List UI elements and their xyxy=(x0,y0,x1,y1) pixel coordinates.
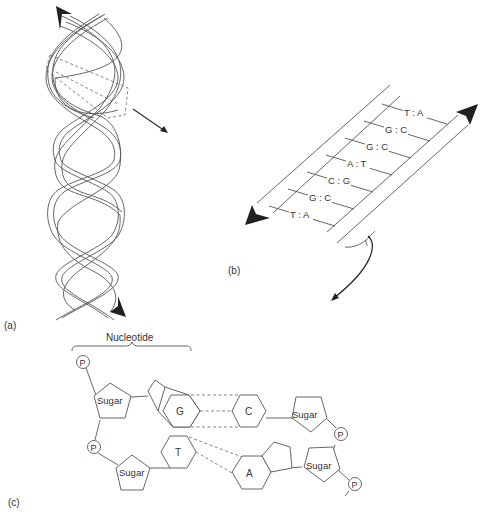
base-t: T xyxy=(161,436,196,468)
panel-c-nucleotide-pairing: Nucleotide P P P P xyxy=(72,332,362,496)
svg-text:P: P xyxy=(80,358,86,368)
panel-b-label: (b) xyxy=(228,265,240,276)
svg-text:Sugar: Sugar xyxy=(292,409,317,420)
panel-a-label: (a) xyxy=(4,320,16,331)
phosphate-2: P xyxy=(88,441,101,454)
svg-text:T: T xyxy=(175,447,181,458)
svg-text:G: G xyxy=(176,406,184,417)
nucleotide-bracket-label: Nucleotide xyxy=(106,332,154,343)
phosphate-1: P xyxy=(77,356,90,369)
sugar-2: Sugar xyxy=(116,455,150,490)
sugar-4: Sugar xyxy=(304,447,340,482)
base-pair-4: A : T xyxy=(347,158,367,169)
base-c: C xyxy=(232,395,266,427)
base-pair-3: G : C xyxy=(366,141,388,152)
base-pair-2: G : C xyxy=(385,124,407,135)
svg-text:Sugar: Sugar xyxy=(306,460,331,471)
base-g: G xyxy=(148,380,200,427)
base-pair-1: T : A xyxy=(404,107,424,118)
base-pair-5: C : G xyxy=(328,175,350,186)
phosphate-3: P xyxy=(335,428,348,441)
svg-text:C: C xyxy=(245,406,252,417)
sugar-1: Sugar xyxy=(94,383,131,418)
svg-text:A: A xyxy=(246,468,253,479)
panel-a-double-helix xyxy=(46,6,168,320)
panel-b-dna-ladder: T : A G : C G : C A : T C : G G : C T : … xyxy=(245,85,478,301)
svg-text:P: P xyxy=(338,430,344,440)
base-pair-6: G : C xyxy=(309,192,331,203)
panel-c-label: (c) xyxy=(8,497,20,508)
base-a: A xyxy=(232,442,292,489)
dna-structure-diagram: (a) T : A G : C G : C A : T xyxy=(0,0,482,514)
svg-text:Sugar: Sugar xyxy=(97,395,122,406)
phosphate-4: P xyxy=(349,478,362,491)
svg-text:P: P xyxy=(352,480,358,490)
sugar-3: Sugar xyxy=(292,397,327,432)
svg-text:P: P xyxy=(91,443,97,453)
svg-text:Sugar: Sugar xyxy=(119,467,144,478)
base-pair-7: T : A xyxy=(290,209,310,220)
